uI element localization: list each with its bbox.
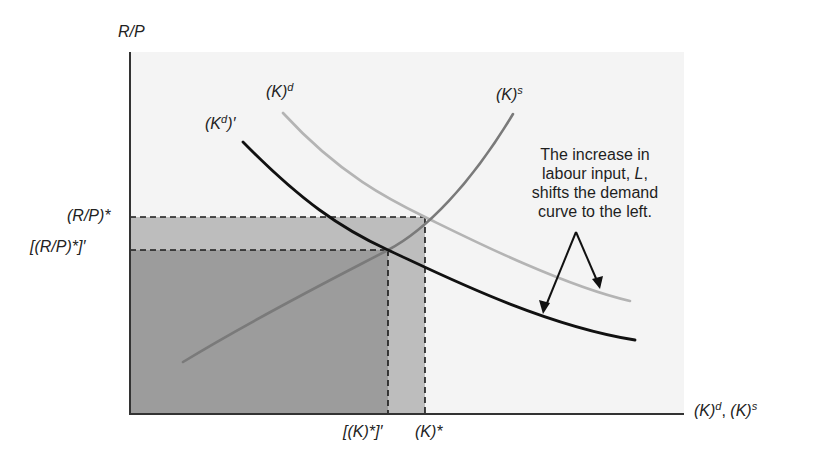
curve-label-ks-base: (K) (496, 86, 517, 103)
annotation-line-2: labour input, L, (505, 164, 685, 183)
x-tick-k-star: (K)* (415, 424, 443, 440)
shift-annotation: The increase in labour input, L, shifts … (505, 145, 685, 221)
x-axis-label: (K)d, (K)s (694, 403, 757, 419)
curve-label-kd-prime: (Kd)′ (205, 116, 235, 132)
annotation-line-3: shifts the demand (505, 183, 685, 202)
y-tick-rp-star-prime: [(R/P)*]′ (30, 239, 85, 255)
y-tick-rp-star: (R/P)* (67, 208, 111, 224)
annotation-line-2c: , (643, 165, 647, 182)
curve-label-kdp-close: )′ (227, 115, 235, 132)
curve-label-kd-base: (K) (266, 83, 287, 100)
annotation-line-1: The increase in (505, 145, 685, 164)
y-axis-label-numerator: R (118, 23, 130, 40)
curve-label-kd-sup: d (287, 81, 293, 93)
new-income-area (130, 250, 388, 414)
x-tick-k-star-prime: [(K)*]′ (343, 424, 382, 440)
y-axis-label-denominator: P (134, 23, 145, 40)
y-axis-label: R/P (118, 24, 145, 40)
annotation-line-2a: labour input, (542, 165, 635, 182)
curve-label-ks-sup: s (517, 84, 523, 96)
curve-label-kdp-open: (K (205, 115, 221, 132)
x-axis-label-sep: , (721, 402, 730, 419)
annotation-line-4: curve to the left. (505, 202, 685, 221)
curve-label-ks: (K)s (496, 87, 523, 103)
curve-label-kd: (K)d (266, 84, 293, 100)
x-axis-label-kd: (K) (694, 402, 715, 419)
x-axis-label-ks-sup: s (752, 400, 758, 412)
x-axis-label-ks: (K) (730, 402, 751, 419)
capital-market-diagram (0, 0, 822, 462)
